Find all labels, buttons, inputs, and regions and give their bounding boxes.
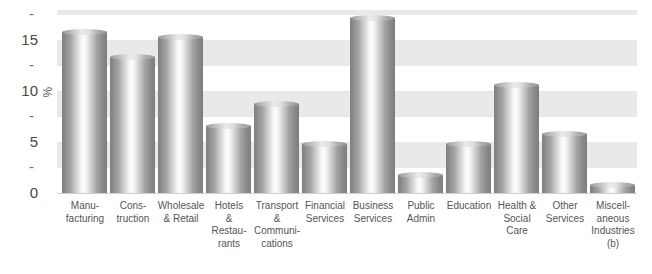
x-axis-tick-label: Education — [445, 200, 493, 213]
bar-cap — [350, 15, 395, 21]
x-axis-tick-label-line: Services — [349, 213, 397, 226]
x-axis-tick-label-line: Other — [541, 200, 589, 213]
bar-cap — [110, 54, 155, 60]
x-axis-tick-label-line: Transport — [253, 200, 301, 213]
bar-cap — [590, 182, 635, 188]
x-axis-tick-label-line: (b) — [589, 238, 637, 251]
y-axis-tick-label: 10 — [21, 83, 38, 98]
y-axis-minor-tick: - — [29, 159, 34, 174]
x-axis-tick-label: Manu-facturing — [61, 200, 109, 225]
x-axis-labels: Manu-facturingCons-tructionWholesale& Re… — [62, 200, 642, 274]
x-axis-tick-label: BusinessServices — [349, 200, 397, 225]
y-axis-title: % — [41, 82, 55, 102]
bar-cap — [206, 123, 251, 129]
x-axis-tick-label-line: Miscell- — [589, 200, 637, 213]
x-axis-tick-label-line: Services — [301, 213, 349, 226]
x-axis-tick-label: PublicAdmin — [397, 200, 445, 225]
y-axis-minor-tick: - — [29, 57, 34, 72]
x-axis-tick-label-line: rants — [205, 238, 253, 251]
x-axis-tick-label-line: Financial — [301, 200, 349, 213]
bar[interactable] — [206, 126, 251, 193]
x-axis-tick-label-line: truction — [109, 213, 157, 226]
x-axis-tick-label-line: aneous — [589, 213, 637, 226]
x-axis-tick-label: Cons-truction — [109, 200, 157, 225]
x-axis-line — [57, 193, 637, 194]
x-axis-tick-label-line: Health & — [493, 200, 541, 213]
y-axis-tick-label: 5 — [30, 134, 38, 149]
x-axis-tick-label-line: Communi- — [253, 225, 301, 238]
bar[interactable] — [302, 144, 347, 193]
y-axis-minor-tick: - — [29, 6, 34, 21]
bar[interactable] — [62, 32, 107, 193]
x-axis-tick-label: Wholesale& Retail — [157, 200, 205, 225]
bar[interactable] — [110, 57, 155, 193]
bar[interactable] — [350, 18, 395, 193]
x-axis-tick-label-line: Social — [493, 213, 541, 226]
bar-chart: 051015---- % Manu-facturingCons-truction… — [0, 0, 652, 274]
bar-cap — [302, 141, 347, 147]
bar[interactable] — [590, 185, 635, 193]
x-axis-tick-label-line: Manu- — [61, 200, 109, 213]
x-axis-tick-label-line: Care — [493, 225, 541, 238]
x-axis-tick-label-line: Cons- — [109, 200, 157, 213]
x-axis-tick-label: Miscell-aneousIndustries(b) — [589, 200, 637, 250]
y-axis-tick-label: 15 — [21, 32, 38, 47]
y-axis-tick-label: 0 — [30, 185, 38, 200]
x-axis-tick-label-line: & — [253, 213, 301, 226]
x-axis-tick-label-line: Education — [445, 200, 493, 213]
x-axis-tick-label-line: facturing — [61, 213, 109, 226]
bar-cap — [542, 131, 587, 137]
bar[interactable] — [398, 175, 443, 193]
x-axis-tick-label-line: Restau- — [205, 225, 253, 238]
x-axis-tick-label-line: Admin — [397, 213, 445, 226]
bar-cap — [446, 141, 491, 147]
x-axis-tick-label-line: Hotels — [205, 200, 253, 213]
bar-cap — [398, 172, 443, 178]
bar[interactable] — [446, 144, 491, 193]
bar[interactable] — [494, 85, 539, 193]
x-axis-tick-label: Transport&Communi-cations — [253, 200, 301, 250]
x-axis-tick-label-line: Wholesale — [157, 200, 205, 213]
x-axis-tick-label-line: Public — [397, 200, 445, 213]
bar[interactable] — [254, 104, 299, 193]
x-axis-tick-label-line: Industries — [589, 225, 637, 238]
x-axis-tick-label: OtherServices — [541, 200, 589, 225]
x-axis-tick-label-line: & Retail — [157, 213, 205, 226]
x-axis-tick-label: FinancialServices — [301, 200, 349, 225]
y-axis: 051015---- — [0, 0, 46, 205]
bar[interactable] — [158, 37, 203, 193]
plot-area — [57, 10, 637, 193]
x-axis-tick-label-line: Services — [541, 213, 589, 226]
x-axis-tick-label-line: & — [205, 213, 253, 226]
bar-cap — [158, 34, 203, 40]
bar-cap — [494, 82, 539, 88]
bar-series — [62, 10, 637, 193]
y-axis-minor-tick: - — [29, 108, 34, 123]
x-axis-tick-label-line: Business — [349, 200, 397, 213]
x-axis-tick-label: Hotels&Restau-rants — [205, 200, 253, 250]
x-axis-tick-label: Health &SocialCare — [493, 200, 541, 238]
bar-cap — [62, 29, 107, 35]
x-axis-tick-label-line: cations — [253, 238, 301, 251]
bar-cap — [254, 101, 299, 107]
bar[interactable] — [542, 134, 587, 193]
